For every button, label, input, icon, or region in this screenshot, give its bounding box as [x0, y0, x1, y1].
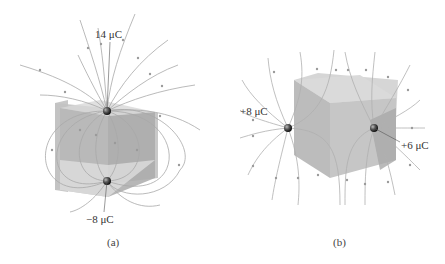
charge-positive-8: [284, 124, 292, 132]
caption-b: (b): [333, 236, 346, 248]
field-diagram: [0, 0, 445, 264]
charge-label-14: 14 μC: [95, 28, 122, 40]
charge-label-neg8: −8 μC: [86, 213, 114, 225]
charge-label-pos8: +8 μC: [240, 105, 268, 117]
charge-label-pos6: +6 μC: [401, 139, 429, 151]
cube-b: [294, 73, 398, 178]
caption-a: (a): [107, 236, 119, 248]
